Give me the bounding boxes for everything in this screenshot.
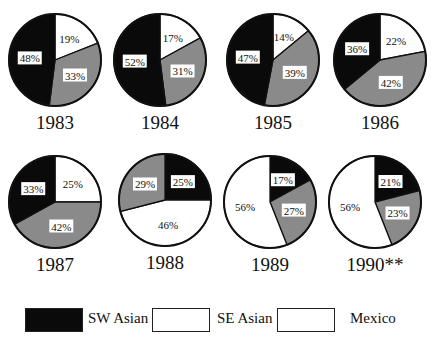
slice-label: 25% (63, 178, 83, 190)
pie-year-label: 1988 (115, 252, 215, 274)
pie-year-label: 1983 (5, 112, 105, 134)
pie-year-label: 1990** (325, 254, 425, 276)
slice-label: 42% (51, 221, 71, 233)
slice-label: 52% (125, 56, 145, 68)
pie-chart-1983: 19%33%48% (6, 11, 104, 109)
slice-label: 39% (285, 67, 305, 79)
legend-swatch-se-asian (152, 308, 210, 332)
legend-swatch-sw-asian (25, 308, 83, 332)
pie-chart-1986: 22%42%36% (331, 11, 429, 109)
legend: SW Asian SE Asian Mexico (25, 308, 425, 336)
pie-year-label: 1989 (220, 254, 320, 276)
slice-label: 42% (381, 77, 401, 89)
slice-label: 56% (235, 201, 255, 213)
slice-label: 21% (380, 176, 400, 188)
slice-label: 17% (163, 32, 183, 44)
legend-swatch-mexico (277, 308, 335, 332)
pie-chart-1990: 21%23%56% (326, 153, 424, 251)
pie-year-label: 1986 (330, 112, 430, 134)
slice-label: 27% (284, 205, 304, 217)
slice-label: 36% (347, 43, 367, 55)
pie-chart-1989: 17%27%56% (221, 153, 319, 251)
pie-year-label: 1987 (5, 254, 105, 276)
legend-label-se-asian: SE Asian (217, 310, 272, 327)
pie-year-label: 1985 (223, 112, 323, 134)
slice-label: 22% (386, 35, 406, 47)
slice-label: 19% (59, 33, 79, 45)
pie-chart-1985: 14%39%47% (224, 11, 322, 109)
pie-chart-1987: 25%42%33% (6, 153, 104, 251)
slice-label: 17% (273, 174, 293, 186)
pie-chart-1988: 25%46%29% (116, 151, 214, 249)
slice-label: 56% (340, 201, 360, 213)
slice-label: 25% (173, 176, 193, 188)
slice-label: 33% (23, 183, 43, 195)
slice-label: 48% (20, 52, 40, 64)
slice-label: 46% (158, 219, 178, 231)
legend-label-mexico: Mexico (350, 310, 396, 327)
legend-label-sw-asian: SW Asian (88, 310, 148, 327)
pie-chart-1984: 17%31%52% (111, 11, 209, 109)
pie-year-label: 1984 (110, 112, 210, 134)
slice-label: 29% (135, 178, 155, 190)
slice-label: 33% (65, 70, 85, 82)
slice-label: 14% (274, 31, 294, 43)
slice-label: 31% (172, 65, 192, 77)
slice-label: 47% (238, 52, 258, 64)
slice-label: 23% (387, 207, 407, 219)
